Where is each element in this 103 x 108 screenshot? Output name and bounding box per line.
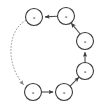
edge-n5-n4-solid [70, 77, 79, 85]
edge-path-solid [70, 77, 79, 85]
node-n2[interactable]: a [58, 8, 75, 25]
node-n5[interactable]: a [56, 84, 73, 101]
edge-n2-n1-solid [45, 16, 57, 17]
edge-n3-n2-solid [71, 23, 80, 34]
diagram-canvas: a a a a a a [0, 0, 103, 108]
node-n4[interactable]: a [77, 63, 94, 80]
edge-path-solid [45, 16, 57, 17]
edge-n1-n6-dotted [11, 21, 26, 85]
edge-path-dotted [11, 21, 26, 85]
node-n3[interactable]: a [77, 33, 94, 50]
graph-svg: a a a a a a [0, 0, 103, 108]
node-n6[interactable]: a [25, 84, 42, 101]
node-n1[interactable]: a [26, 9, 43, 26]
edge-path-solid [71, 23, 80, 34]
